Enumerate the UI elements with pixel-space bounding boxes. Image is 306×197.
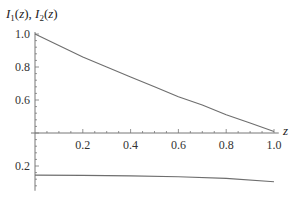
y-tick-label: 0.6 [15,93,30,107]
series-line-1 [35,34,274,131]
line-chart: 0.20.40.60.81.01.00.80.60.2 I1(z), I2(z)… [0,0,306,197]
x-tick-label: 0.2 [75,138,90,152]
x-axis-title: z [282,123,288,138]
x-tick-label: 1.0 [267,138,282,152]
y-axis-title: I1(z), I2(z) [5,6,58,23]
series-line-2 [35,175,274,182]
x-tick-label: 0.4 [123,138,138,152]
series [35,34,274,182]
x-tick-label: 0.8 [219,138,234,152]
ticks: 0.20.40.60.81.01.00.80.60.2 [15,27,282,186]
y-tick-label: 1.0 [15,27,30,41]
y-tick-label: 0.8 [15,60,30,74]
axes [31,32,279,191]
x-tick-label: 0.6 [171,138,186,152]
y-tick-label: 0.2 [15,159,30,173]
